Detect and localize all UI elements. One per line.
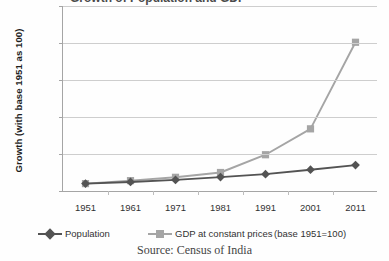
x-tick-mark-4 <box>243 191 244 195</box>
x-tick-mark-3 <box>198 191 199 195</box>
source-caption: Source: Census of India <box>0 243 389 258</box>
legend-item-gdp[interactable]: GDP at constant prices <box>148 228 273 239</box>
y-tick-mark-0 <box>59 191 63 192</box>
legend-base-note: (base 1951=100) <box>274 228 346 239</box>
gridline-2000 <box>63 43 377 44</box>
x-tick-mark-2 <box>153 191 154 195</box>
series-layer <box>63 6 378 191</box>
plot-area: 0500100015002000250019511961197119811991… <box>62 6 377 191</box>
x-tick-label-2011: 2011 <box>326 202 386 213</box>
legend-label-population: Population <box>65 228 110 239</box>
chart-container: Growth of Population and GDP Growth (wit… <box>0 0 389 261</box>
y-tick-mark-1000 <box>59 117 63 118</box>
legend-item-population[interactable]: Population <box>38 228 110 239</box>
y-tick-mark-2000 <box>59 43 63 44</box>
legend-label-gdp: GDP at constant prices <box>175 228 273 239</box>
data-point-diamond-2001 <box>306 165 315 174</box>
gridline-1500 <box>63 80 377 81</box>
gridline-500 <box>63 154 377 155</box>
gdp-marker-icon <box>148 228 172 239</box>
data-point-square-2001 <box>307 125 314 132</box>
data-point-diamond-2011 <box>351 161 360 170</box>
gridline-2500 <box>63 6 377 7</box>
y-tick-mark-1500 <box>59 80 63 81</box>
y-tick-mark-2500 <box>59 6 63 7</box>
y-tick-mark-500 <box>59 154 63 155</box>
data-point-diamond-1991 <box>261 170 270 179</box>
y-axis-title: Growth (with base 1951 as 100) <box>13 1 24 201</box>
gridline-1000 <box>63 117 377 118</box>
chart-title-cropped: Growth of Population and GDP <box>0 0 389 5</box>
chart-legend: Population GDP at constant prices (base … <box>0 228 389 242</box>
x-tick-mark-1 <box>108 191 109 195</box>
x-tick-mark-6 <box>333 191 334 195</box>
x-tick-mark-5 <box>288 191 289 195</box>
gridline-0 <box>63 191 377 192</box>
population-marker-icon <box>38 228 62 239</box>
page-title: Growth of Population and GDP <box>70 0 246 5</box>
series-line-gdp-at-constant-prices <box>86 42 356 183</box>
